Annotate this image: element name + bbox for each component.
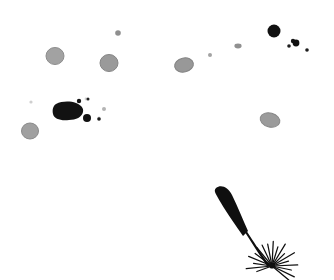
faint-speck-cluster-b [102,107,106,111]
specimen-field [0,0,334,280]
flagellate-burst-core [269,263,274,268]
ink-blob-main [53,102,84,121]
grey-cell-upper-mid [100,55,118,72]
grey-speck-upper-right [234,44,241,49]
grey-speck-mid-right [208,53,212,57]
image-canvas: Specimen Field View [0,0,334,280]
black-dot-splatter-a [77,99,81,103]
canvas-background [0,0,334,280]
faint-speck-left [29,100,32,103]
grey-cell-upper-left [46,48,64,65]
black-dot-splatter-d [97,117,101,121]
grey-speck-top [115,30,121,36]
black-dot-splatter-c [83,114,91,122]
black-dot-cluster-d [305,48,309,52]
black-dot-splatter-b [87,98,90,101]
black-dot-cluster-b [293,40,300,47]
black-dot-large-top-right [268,25,281,38]
black-dot-cluster-c [287,44,291,48]
grey-cell-lower-left [22,123,39,139]
